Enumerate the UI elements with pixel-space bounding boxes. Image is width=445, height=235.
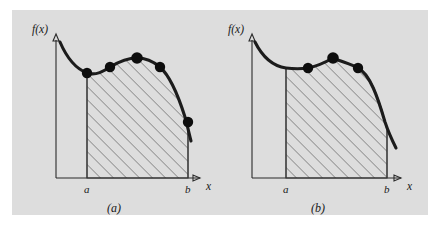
- plot-panel-b: f(x) x a b (b): [222, 0, 444, 235]
- y-axis-label-b: f(x): [228, 23, 244, 36]
- plot-svg-b: f(x) x a b (b): [222, 0, 444, 235]
- node-dot: [131, 52, 143, 64]
- y-axis-arrow-a: [53, 34, 59, 41]
- tick-label-b-right: b: [384, 183, 390, 195]
- hatched-area-b: [222, 0, 444, 235]
- figure-container: f(x) x a b (a): [0, 0, 445, 235]
- tick-label-a-right: b: [185, 183, 191, 195]
- node-dot: [155, 62, 165, 72]
- node-dot: [82, 68, 92, 78]
- tick-label-b-left: a: [283, 183, 289, 195]
- node-dot: [183, 117, 193, 127]
- x-axis-label-a: x: [205, 180, 212, 192]
- tick-label-a-left: a: [84, 183, 90, 195]
- y-axis-label-a: f(x): [32, 23, 48, 36]
- plot-panel-a: f(x) x a b (a): [0, 0, 222, 235]
- node-dot: [353, 63, 363, 73]
- x-axis-label-b: x: [406, 180, 413, 192]
- y-axis-arrow-b: [249, 34, 255, 41]
- plot-svg-a: f(x) x a b (a): [0, 0, 222, 235]
- panel-caption-a: (a): [107, 201, 121, 215]
- node-dot: [105, 62, 115, 72]
- panel-caption-b: (b): [311, 201, 325, 215]
- node-dot: [327, 52, 339, 64]
- node-dot: [303, 63, 313, 73]
